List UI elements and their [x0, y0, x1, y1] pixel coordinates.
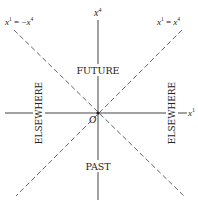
spacetime-diagram: x4 x1 O x1 = −x4 x1 = x4 FUTURE PAST ELS…	[0, 0, 198, 200]
vertical-axis-label: x4	[93, 7, 101, 18]
elsewhere-right-label: ELSEWHERE	[167, 82, 177, 144]
horizontal-axis-label: x1	[187, 107, 195, 118]
origin-point	[96, 111, 99, 114]
elsewhere-left-label: ELSEWHERE	[34, 82, 44, 144]
origin-label: O	[89, 114, 96, 125]
light-line-right-label: x1 = x4	[156, 16, 180, 27]
past-label: PAST	[85, 161, 111, 172]
future-label: FUTURE	[76, 65, 119, 76]
light-line-left-label: x1 = −x4	[4, 16, 33, 27]
